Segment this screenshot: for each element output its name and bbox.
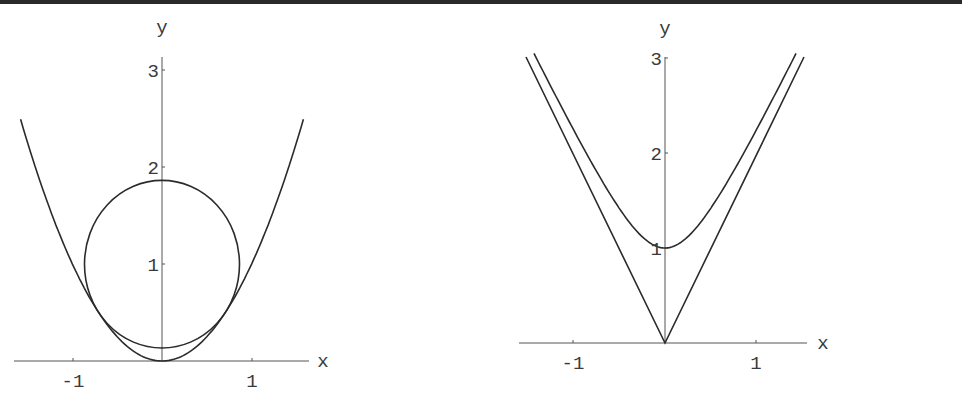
- right-x-tick-label: -1: [562, 353, 585, 375]
- left-y-tick-label: 3: [148, 61, 159, 83]
- right-x-tick-label: 1: [750, 353, 761, 375]
- left-y-axis-label: y: [156, 17, 167, 39]
- right-plot: y x -1 1 1 2 3: [519, 18, 829, 375]
- left-plot: y x -1 1 1 2 3: [14, 17, 329, 393]
- left-y-tick-label: 1: [148, 255, 159, 277]
- right-y-tick-label: 2: [651, 144, 662, 166]
- left-x-tick-label: 1: [246, 371, 257, 393]
- right-y-tick-label: 3: [651, 49, 662, 71]
- left-y-tick-label: 2: [148, 158, 159, 180]
- right-x-axis-label: x: [817, 333, 828, 355]
- right-y-tick-label: 1: [651, 239, 662, 261]
- right-y-axis-label: y: [659, 18, 670, 40]
- left-x-axis-label: x: [317, 351, 328, 373]
- figure: y x -1 1 1 2 3 y x -1 1 1 2 3: [0, 0, 962, 394]
- left-x-tick-label: -1: [62, 371, 85, 393]
